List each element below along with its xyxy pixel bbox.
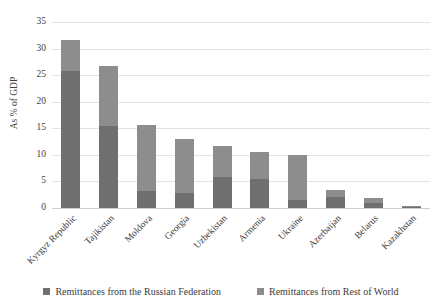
bar-segment-russian-federation[interactable] — [288, 200, 307, 208]
bar-slot — [90, 22, 128, 208]
bar-stack[interactable] — [288, 155, 307, 208]
y-axis-tick-label: 30 — [37, 44, 47, 54]
bar-group — [52, 22, 430, 208]
y-axis-tick-label: 35 — [37, 17, 47, 27]
bar-slot — [241, 22, 279, 208]
bar-slot — [52, 22, 90, 208]
bar-segment-rest-of-world[interactable] — [175, 139, 194, 193]
bar-segment-rest-of-world[interactable] — [250, 152, 269, 179]
bar-slot — [279, 22, 317, 208]
x-axis-tick-label: Kazakhstan — [380, 213, 418, 251]
bar-stack[interactable] — [402, 206, 421, 208]
legend-label: Remittances from the Russian Federation — [55, 286, 221, 297]
x-axis-label-group: Kyrgyz RepublicTajikistanMoldovaGeorgiaU… — [52, 209, 430, 271]
x-axis-tick-label: Tajikistan — [82, 213, 115, 246]
y-axis-tick-label: 10 — [37, 150, 47, 160]
bar-slot — [317, 22, 355, 208]
bar-segment-russian-federation[interactable] — [364, 203, 383, 208]
bar-stack[interactable] — [250, 152, 269, 208]
y-axis-tick-label: 15 — [37, 123, 47, 133]
bar-stack[interactable] — [213, 146, 232, 208]
bar-segment-russian-federation[interactable] — [402, 207, 421, 208]
bar-slot — [392, 22, 430, 208]
bar-stack[interactable] — [326, 190, 345, 208]
x-axis-tick-label: Ukraine — [276, 213, 305, 242]
x-axis-tick-label: Uzbekistan — [192, 213, 229, 250]
x-axis-tick-label: Armenia — [236, 213, 267, 244]
legend-item[interactable]: Remittances from the Russian Federation — [43, 286, 221, 297]
bar-segment-rest-of-world[interactable] — [61, 40, 80, 71]
plot-area — [52, 22, 430, 208]
bar-stack[interactable] — [137, 125, 156, 208]
bar-segment-russian-federation[interactable] — [61, 71, 80, 208]
y-axis: As % of GDP 35302520151050 — [0, 12, 52, 220]
bar-segment-russian-federation[interactable] — [137, 191, 156, 208]
bar-segment-rest-of-world[interactable] — [288, 155, 307, 200]
bar-segment-rest-of-world[interactable] — [326, 190, 345, 197]
bar-segment-russian-federation[interactable] — [213, 177, 232, 208]
x-axis-tick-label: Azerbaijan — [306, 213, 343, 250]
y-axis-tick-label: 5 — [41, 176, 46, 186]
y-axis-tick-label: 25 — [37, 70, 47, 80]
x-axis-tick-label: Georgia — [163, 213, 192, 242]
x-axis-tick-label: Moldova — [122, 213, 153, 244]
legend-item[interactable]: Remittances from Rest of World — [257, 286, 399, 297]
y-axis-tick-label: 20 — [37, 97, 47, 107]
y-axis-title: As % of GDP — [9, 55, 19, 151]
bar-segment-russian-federation[interactable] — [250, 179, 269, 208]
bar-segment-rest-of-world[interactable] — [137, 125, 156, 191]
bar-stack[interactable] — [61, 40, 80, 208]
chart-container: As % of GDP 35302520151050 Kyrgyz Republ… — [0, 0, 442, 303]
bar-segment-russian-federation[interactable] — [99, 126, 118, 208]
bar-segment-russian-federation[interactable] — [326, 197, 345, 208]
bar-slot — [165, 22, 203, 208]
bar-slot — [354, 22, 392, 208]
x-axis-tick-label: Belarus — [353, 213, 381, 241]
x-axis-tick-label: Kyrgyz Republic — [25, 213, 78, 266]
bar-segment-rest-of-world[interactable] — [99, 66, 118, 126]
bar-stack[interactable] — [364, 198, 383, 208]
bar-segment-rest-of-world[interactable] — [213, 146, 232, 176]
bar-slot — [203, 22, 241, 208]
bar-segment-russian-federation[interactable] — [175, 193, 194, 208]
bar-slot — [128, 22, 166, 208]
y-axis-tick-label: 0 — [41, 203, 46, 213]
legend-swatch-icon — [257, 288, 264, 295]
chart-legend: Remittances from the Russian FederationR… — [0, 286, 442, 297]
legend-swatch-icon — [43, 288, 50, 295]
legend-label: Remittances from Rest of World — [269, 286, 399, 297]
bar-stack[interactable] — [99, 66, 118, 208]
bar-stack[interactable] — [175, 139, 194, 208]
